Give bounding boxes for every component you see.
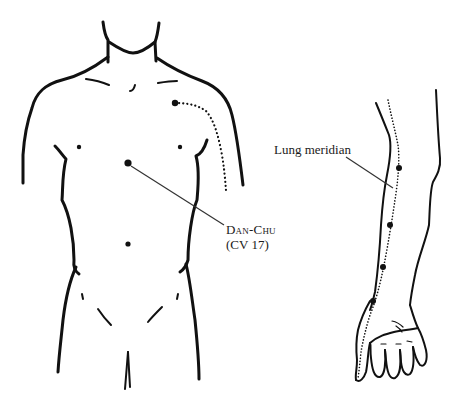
illustration bbox=[0, 0, 463, 407]
arm-acupoint-2 bbox=[387, 222, 393, 228]
dan-chu-code: (CV 17) bbox=[226, 237, 276, 252]
shoulder-acupoint bbox=[172, 100, 178, 106]
dan-chu-leader-line bbox=[131, 166, 224, 225]
lung-meridian-leader-line bbox=[346, 157, 393, 188]
dan-chu-point bbox=[124, 159, 131, 166]
arm-figure bbox=[346, 90, 440, 381]
torso-figure bbox=[23, 22, 243, 389]
dan-chu-label: Dan-Chu (CV 17) bbox=[226, 222, 276, 252]
acupuncture-figure: Lung meridian Dan-Chu (CV 17) bbox=[0, 0, 463, 407]
arm-acupoint-1 bbox=[396, 165, 402, 171]
dan-chu-name: Dan-Chu bbox=[226, 222, 276, 237]
arm-acupoint-3 bbox=[380, 264, 386, 270]
arm-acupoint-4 bbox=[370, 298, 376, 304]
lung-meridian-label: Lung meridian bbox=[274, 142, 351, 157]
